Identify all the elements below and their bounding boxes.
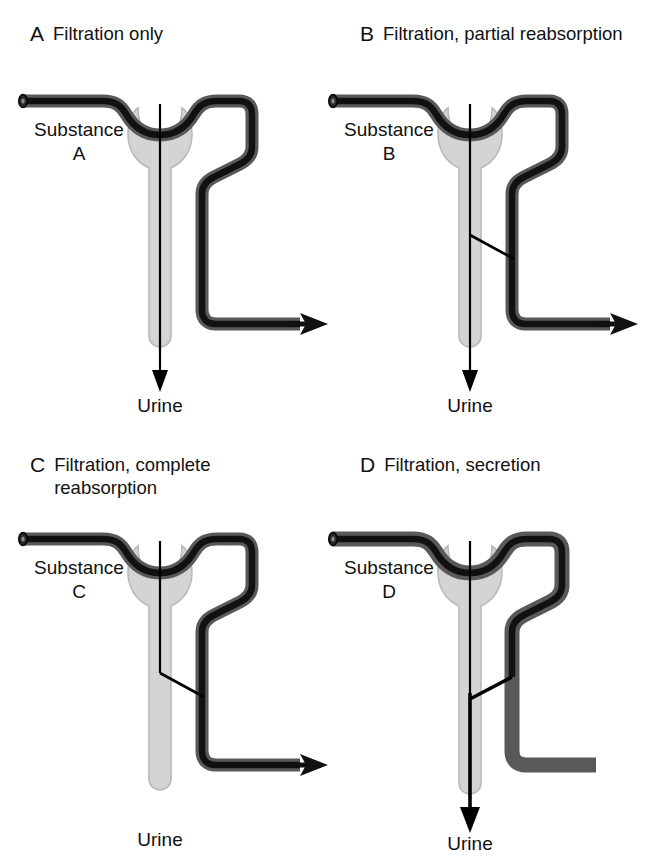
panel-a-vessel-outflow-arrow-icon	[286, 313, 328, 335]
panel-d-urine-label: Urine	[420, 833, 520, 855]
panel-b-urine-label: Urine	[420, 395, 520, 417]
panel-a-urine-arrowhead-icon	[152, 370, 168, 392]
panel-b-vessel-cross-section-inner-icon	[331, 98, 334, 103]
panel-c-vessel-outflow-arrow-icon	[286, 754, 328, 776]
panel-b-nephron-diagram	[330, 0, 660, 430]
panel-b-urine-arrowhead-icon	[462, 370, 478, 392]
panel-a-filtration-only: A Filtration only Substance A	[0, 0, 330, 430]
panel-d-nephron-diagram	[330, 431, 660, 861]
panel-a-urine-label: Urine	[110, 395, 210, 417]
panel-c-vessel-cross-section-inner-icon	[21, 536, 24, 541]
panel-c-filtration-complete-reabsorption: C Filtration, complete reabsorption Subs…	[0, 431, 330, 861]
panel-d-vessel-cross-section-inner-icon	[331, 536, 334, 541]
nephron-figure: A Filtration only Substance A	[0, 0, 660, 861]
panel-b-filtration-partial-reabsorption: B Filtration, partial reabsorption Subst…	[330, 0, 660, 430]
panel-c-urine-label: Urine	[110, 829, 210, 851]
panel-d-filtration-secretion: D Filtration, secretion Substance D	[330, 431, 660, 861]
panel-b-vessel-outflow-arrow-icon	[596, 313, 638, 335]
panel-a-vessel-cross-section-inner-icon	[21, 98, 24, 103]
panel-c-nephron-diagram	[0, 431, 330, 861]
panel-a-nephron-diagram	[0, 0, 330, 430]
panel-d-urine-arrowhead-icon	[460, 807, 480, 833]
